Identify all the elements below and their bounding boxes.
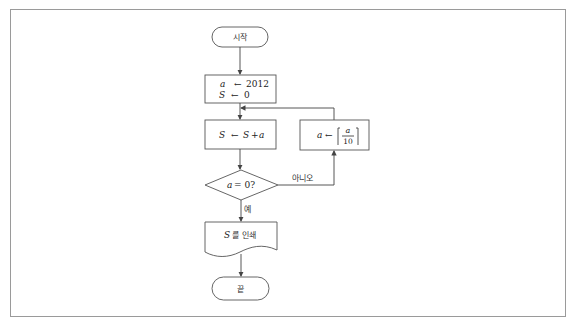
init-arrow-1: ← bbox=[234, 79, 242, 89]
init-var-a: a bbox=[220, 79, 225, 89]
accumulate-arrow: ← bbox=[231, 130, 239, 140]
init-var-s: S bbox=[219, 90, 225, 100]
init-process-box: a ← 2012 S ← 0 bbox=[205, 75, 276, 103]
start-label: 시작 bbox=[233, 32, 248, 42]
accumulate-process-box: S ← S + a bbox=[205, 120, 276, 149]
start-terminal: 시작 bbox=[212, 27, 268, 47]
end-terminal: 끝 bbox=[212, 277, 269, 300]
fraction-numerator: a bbox=[346, 126, 351, 135]
decision-cond: = 0? bbox=[234, 180, 255, 190]
accumulate-expr-var: S bbox=[243, 130, 249, 140]
update-arrow: ← bbox=[325, 130, 333, 140]
output-var: S bbox=[224, 230, 230, 240]
output-text: 를 인쇄 bbox=[232, 230, 256, 240]
fraction-denominator: 10 bbox=[343, 137, 353, 146]
init-value-s: 0 bbox=[244, 90, 250, 100]
accumulate-var: S bbox=[219, 130, 225, 140]
decision-var: a bbox=[227, 180, 232, 190]
no-label: 아니오 bbox=[292, 173, 313, 183]
accumulate-term: a bbox=[259, 130, 264, 140]
loop-back-connector bbox=[241, 108, 334, 120]
accumulate-plus: + bbox=[251, 130, 259, 140]
update-process-box: a ← a 10 bbox=[300, 120, 369, 150]
flowchart: 시작 a ← 2012 S ← 0 S ← S + a a = 0? 아니오 a… bbox=[0, 0, 576, 328]
init-arrow-2: ← bbox=[231, 90, 239, 100]
output-document: S 를 인쇄 bbox=[205, 222, 277, 257]
update-var: a bbox=[317, 130, 322, 140]
decision-diamond: a = 0? bbox=[205, 170, 278, 200]
init-value-a: 2012 bbox=[246, 79, 269, 89]
end-label: 끝 bbox=[237, 285, 244, 294]
yes-label: 예 bbox=[244, 204, 251, 214]
